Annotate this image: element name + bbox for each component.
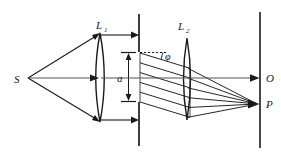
collimated-ray-bottom-arrowhead	[131, 117, 139, 124]
optics-diagram: S L 1 L 2 a φ O P	[0, 0, 281, 159]
diffracted-ray-6	[140, 102, 190, 117]
focus-point-arrowhead	[248, 100, 260, 109]
label-axis-point-o: O	[266, 72, 274, 84]
optical-axis-arrowhead	[250, 74, 260, 82]
diffracted-ray-bundle	[140, 53, 190, 117]
diffracted-ray-3	[140, 73, 190, 88]
label-slit-width-a: a	[117, 72, 123, 84]
incident-ray-lower	[28, 78, 96, 119]
label-focus-point-p: P	[265, 98, 273, 110]
diffracted-ray-5	[140, 92, 190, 107]
converging-ray-bundle	[188, 68, 260, 117]
slit-dimension-arrow-down	[126, 94, 132, 101]
converging-ray-1	[188, 68, 256, 103]
slit-width-dimension	[121, 53, 136, 102]
label-angle-phi: φ	[165, 51, 171, 62]
label-source-s: S	[14, 73, 20, 85]
diffracted-ray-2	[140, 63, 190, 78]
label-lens-l1-subscript: 1	[104, 26, 108, 34]
diffracted-ray-4	[140, 82, 190, 97]
slit-dimension-arrow-up	[126, 53, 132, 60]
label-lens-l2: L	[177, 20, 184, 32]
incident-ray-axial-arrowhead	[90, 75, 99, 82]
label-lens-l2-subscript: 2	[186, 27, 190, 35]
optics-diagram-canvas: S L 1 L 2 a φ O P	[0, 0, 281, 159]
incident-ray-bundle	[28, 33, 100, 122]
label-lens-l1: L	[95, 19, 102, 31]
collimated-ray-top-arrowhead	[131, 32, 139, 39]
angle-arc-phi	[161, 53, 163, 60]
incident-ray-upper	[28, 36, 96, 78]
converging-ray-2	[188, 78, 256, 103]
converging-ray-3	[188, 88, 256, 104]
